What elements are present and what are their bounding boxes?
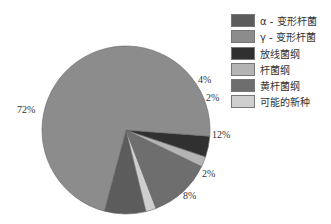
legend-swatch bbox=[231, 79, 255, 92]
legend-label: α - 变形杆菌 bbox=[260, 13, 317, 28]
legend-item-alpha: α - 变形杆菌 bbox=[231, 13, 317, 28]
legend-label: 放线菌纲 bbox=[260, 46, 300, 61]
legend-label: 可能的新种 bbox=[260, 94, 310, 109]
label-novel-species: 2% bbox=[202, 168, 215, 179]
legend-item-bacilli: 杆菌纲 bbox=[231, 62, 317, 77]
label-alpha: 8% bbox=[183, 190, 196, 201]
legend: α - 变形杆菌 γ - 变形杆菌 放线菌纲 杆菌纲 黄杆菌纲 可能的新种 bbox=[231, 13, 317, 111]
legend-swatch bbox=[231, 63, 255, 76]
legend-swatch bbox=[231, 14, 255, 27]
label-gamma: 72% bbox=[17, 104, 35, 115]
legend-item-novel-species: 可能的新种 bbox=[231, 94, 317, 109]
label-bacilli: 2% bbox=[206, 92, 219, 103]
legend-swatch bbox=[231, 95, 255, 108]
legend-label: 杆菌纲 bbox=[260, 62, 290, 77]
legend-item-gamma: γ - 变形杆菌 bbox=[231, 29, 317, 44]
legend-item-flavobacteria: 黄杆菌纲 bbox=[231, 78, 317, 93]
label-flavobacteria: 12% bbox=[212, 129, 230, 140]
legend-swatch bbox=[231, 47, 255, 60]
label-actinobacteria: 4% bbox=[198, 74, 211, 85]
legend-label: γ - 变形杆菌 bbox=[260, 29, 316, 44]
legend-label: 黄杆菌纲 bbox=[260, 78, 300, 93]
legend-item-actinobacteria: 放线菌纲 bbox=[231, 46, 317, 61]
legend-swatch bbox=[231, 30, 255, 43]
